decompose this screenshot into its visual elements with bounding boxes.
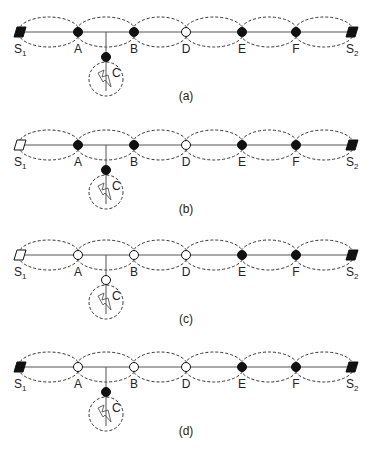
node-label-C: C xyxy=(112,289,121,303)
switch-node-D xyxy=(182,28,191,37)
node-label-F: F xyxy=(292,377,299,391)
switch-node-D xyxy=(182,141,191,150)
switch-node-A xyxy=(74,141,83,150)
node-label-F: F xyxy=(292,265,299,279)
node-label-B: B xyxy=(130,42,138,56)
node-label-D: D xyxy=(182,155,191,169)
switch-node-F xyxy=(292,141,301,150)
node-label-B: B xyxy=(130,377,138,391)
switch-node-E xyxy=(238,141,247,150)
switch-node-B xyxy=(130,363,139,372)
switch-node-A xyxy=(74,28,83,37)
node-label-F: F xyxy=(292,155,299,169)
switch-node-A xyxy=(74,363,83,372)
source-breaker-S1 xyxy=(14,140,26,150)
node-label-S1: S1 xyxy=(14,155,27,171)
node-label-S2: S2 xyxy=(346,155,359,171)
switch-node-E xyxy=(238,363,247,372)
node-label-S2: S2 xyxy=(346,377,359,393)
node-label-A: A xyxy=(74,265,82,279)
switch-node-D xyxy=(182,251,191,260)
source-breaker-S2 xyxy=(346,362,358,372)
switch-node-B xyxy=(130,28,139,37)
switch-node-F xyxy=(292,28,301,37)
source-breaker-S1 xyxy=(14,250,26,260)
node-label-S1: S1 xyxy=(14,42,27,58)
switch-node-D xyxy=(182,363,191,372)
lightning-fault-icon xyxy=(98,293,111,310)
node-label-E: E xyxy=(238,42,246,56)
distribution-feeder-diagram: CS1ABDEFS2(a)CS1ABDEFS2(b)CS1ABDEFS2(c)C… xyxy=(0,0,373,459)
switch-node-E xyxy=(238,251,247,260)
switch-node-A xyxy=(74,251,83,260)
panel-label: (a) xyxy=(179,89,194,103)
lightning-fault-icon xyxy=(98,405,111,422)
source-breaker-S2 xyxy=(346,250,358,260)
panel-label: (b) xyxy=(179,202,194,216)
node-label-D: D xyxy=(182,377,191,391)
node-label-A: A xyxy=(74,377,82,391)
switch-node-F xyxy=(292,251,301,260)
node-label-S2: S2 xyxy=(346,265,359,281)
source-breaker-S1 xyxy=(14,362,26,372)
switch-node-E xyxy=(238,28,247,37)
node-label-A: A xyxy=(74,155,82,169)
node-label-C: C xyxy=(112,401,121,415)
panel-d: CS1ABDEFS2(d) xyxy=(14,352,359,438)
node-label-C: C xyxy=(112,179,121,193)
node-label-S2: S2 xyxy=(346,42,359,58)
switch-node-C xyxy=(102,276,111,285)
node-label-C: C xyxy=(112,66,121,80)
panel-c: CS1ABDEFS2(c) xyxy=(14,240,359,326)
panel-label: (d) xyxy=(179,424,194,438)
panel-a: CS1ABDEFS2(a) xyxy=(14,17,359,103)
source-breaker-S1 xyxy=(14,27,26,37)
node-label-D: D xyxy=(182,42,191,56)
switch-node-F xyxy=(292,363,301,372)
lightning-fault-icon xyxy=(98,183,111,200)
node-label-E: E xyxy=(238,265,246,279)
source-breaker-S2 xyxy=(346,27,358,37)
panel-label: (c) xyxy=(179,312,193,326)
switch-node-C xyxy=(102,53,111,62)
panel-b: CS1ABDEFS2(b) xyxy=(14,130,359,216)
node-label-E: E xyxy=(238,377,246,391)
node-label-F: F xyxy=(292,42,299,56)
node-label-B: B xyxy=(130,155,138,169)
node-label-S1: S1 xyxy=(14,377,27,393)
switch-node-C xyxy=(102,388,111,397)
source-breaker-S2 xyxy=(346,140,358,150)
node-label-D: D xyxy=(182,265,191,279)
node-label-A: A xyxy=(74,42,82,56)
node-label-S1: S1 xyxy=(14,265,27,281)
switch-node-C xyxy=(102,166,111,175)
switch-node-B xyxy=(130,141,139,150)
node-label-B: B xyxy=(130,265,138,279)
lightning-fault-icon xyxy=(98,70,111,87)
node-label-E: E xyxy=(238,155,246,169)
switch-node-B xyxy=(130,251,139,260)
